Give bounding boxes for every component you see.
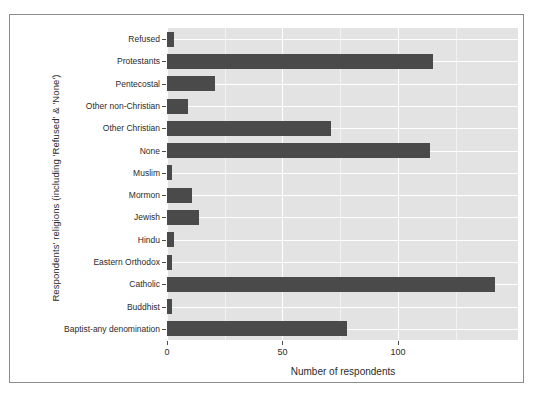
y-axis-tick-mark — [162, 173, 166, 174]
y-axis-tick-mark — [162, 39, 166, 40]
y-axis-tick-label: Muslim — [133, 168, 160, 178]
y-axis-tick-label: Protestants — [117, 56, 160, 66]
y-axis-tick-mark — [162, 106, 166, 107]
x-axis-tick-label: 0 — [164, 347, 169, 357]
y-axis-tick-label: Hindu — [138, 235, 160, 245]
y-axis-tick-mark — [162, 195, 166, 196]
y-axis-tick-mark — [162, 151, 166, 152]
gridline-major-horizontal — [167, 173, 518, 174]
bar — [167, 277, 495, 292]
plot-panel — [167, 28, 518, 340]
bar — [167, 210, 199, 225]
y-axis-tick-mark — [162, 217, 166, 218]
x-axis-tick-mark — [167, 341, 168, 345]
bar — [167, 76, 215, 91]
y-axis-tick-label: Buddhist — [127, 302, 160, 312]
gridline-major-vertical — [282, 28, 283, 340]
bar — [167, 121, 331, 136]
y-axis-tick-label: Refused — [128, 34, 160, 44]
bar — [167, 188, 192, 203]
y-axis-tick-mark — [162, 307, 166, 308]
y-axis-tick-mark — [162, 240, 166, 241]
y-axis-tick-mark — [162, 262, 166, 263]
x-axis-tick-mark — [282, 341, 283, 345]
gridline-major-horizontal — [167, 39, 518, 40]
bar-chart-figure: Respondents' religions (including 'Refus… — [0, 0, 549, 408]
y-axis-tick-mark — [162, 284, 166, 285]
gridline-major-vertical — [398, 28, 399, 340]
y-axis-tick-label: Other Christian — [103, 123, 160, 133]
y-axis-tick-label: Mormon — [129, 190, 160, 200]
x-axis-tick-mark — [398, 341, 399, 345]
y-axis-tick-labels: RefusedProtestantsPentecostalOther non-C… — [0, 28, 160, 340]
y-axis-tick-label: None — [140, 146, 160, 156]
y-axis-tick-label: Baptist-any denomination — [64, 324, 160, 334]
bar — [167, 99, 188, 114]
y-axis-tick-label: Other non-Christian — [86, 101, 160, 111]
x-axis-title: Number of respondents — [167, 366, 519, 377]
bar — [167, 54, 433, 69]
bar — [167, 232, 174, 247]
gridline-major-horizontal — [167, 262, 518, 263]
y-axis-tick-mark — [162, 61, 166, 62]
bar — [167, 255, 172, 270]
gridline-major-horizontal — [167, 307, 518, 308]
bar — [167, 299, 172, 314]
y-axis-tick-mark — [162, 329, 166, 330]
bar — [167, 32, 174, 47]
y-axis-tick-mark — [162, 128, 166, 129]
gridline-minor-vertical — [340, 28, 341, 340]
gridline-major-horizontal — [167, 106, 518, 107]
bar — [167, 143, 430, 158]
gridline-minor-vertical — [225, 28, 226, 340]
gridline-major-horizontal — [167, 84, 518, 85]
y-axis-tick-label: Catholic — [129, 279, 160, 289]
y-axis-tick-label: Jewish — [134, 212, 160, 222]
x-axis-tick-label: 50 — [277, 347, 287, 357]
gridline-minor-vertical — [456, 28, 457, 340]
y-axis-tick-mark — [162, 84, 166, 85]
x-axis-tick-label: 100 — [390, 347, 405, 357]
gridline-major-horizontal — [167, 217, 518, 218]
bar — [167, 165, 172, 180]
gridline-major-horizontal — [167, 240, 518, 241]
x-axis-tick-labels: 050100 — [167, 345, 518, 359]
bar — [167, 321, 347, 336]
gridline-major-horizontal — [167, 195, 518, 196]
y-axis-tick-label: Eastern Orthodox — [93, 257, 160, 267]
y-axis-tick-label: Pentecostal — [116, 79, 160, 89]
gridline-major-vertical — [167, 28, 168, 340]
